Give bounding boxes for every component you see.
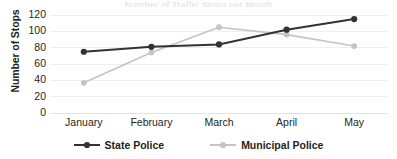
y-tick-label: 40 — [16, 74, 46, 85]
x-tick-label: January — [65, 116, 102, 128]
series-line — [84, 27, 354, 83]
legend-label: Municipal Police — [241, 139, 323, 151]
series-lines — [50, 15, 388, 113]
legend-marker-icon — [74, 140, 100, 150]
legend-item[interactable]: Municipal Police — [210, 139, 323, 151]
data-point-marker — [149, 49, 155, 55]
y-tick-label: 80 — [16, 42, 46, 53]
legend-item[interactable]: State Police — [74, 139, 165, 151]
data-point-marker — [284, 26, 290, 32]
data-point-marker — [81, 48, 87, 54]
y-tick-label: 100 — [16, 25, 46, 36]
data-point-marker — [216, 24, 222, 30]
x-tick-label: March — [204, 116, 233, 128]
x-tick-label: May — [344, 116, 364, 128]
x-axis-tick-labels: JanuaryFebruaryMarchAprilMay — [50, 116, 388, 132]
y-tick-label: 60 — [16, 58, 46, 69]
chart-legend: State PoliceMunicipal Police — [0, 136, 397, 154]
x-tick-label: February — [130, 116, 172, 128]
plot-area — [50, 15, 388, 113]
gridline — [50, 113, 388, 114]
line-chart: Number of Traffic Stops per Month Number… — [0, 0, 397, 159]
data-point-marker — [148, 43, 154, 49]
legend-label: State Police — [105, 139, 165, 151]
y-tick-label: 20 — [16, 91, 46, 102]
y-axis-tick-labels: 020406080100120 — [16, 9, 46, 119]
x-tick-label: April — [276, 116, 297, 128]
data-point-marker — [351, 43, 357, 49]
y-tick-label: 120 — [16, 9, 46, 20]
data-point-marker — [81, 79, 87, 85]
y-tick-label: 0 — [16, 107, 46, 118]
chart-title: Number of Traffic Stops per Month — [0, 0, 397, 7]
legend-marker-icon — [210, 140, 236, 150]
data-point-marker — [351, 15, 357, 21]
data-point-marker — [216, 41, 222, 47]
